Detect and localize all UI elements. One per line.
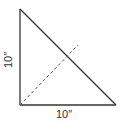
dashed-diagonal: [20, 45, 78, 105]
vertical-side-label: 10″: [2, 52, 14, 68]
right-triangle-diagram: 10″ 10″: [0, 0, 120, 124]
hypotenuse: [20, 9, 116, 105]
horizontal-side-label: 10″: [56, 108, 72, 120]
